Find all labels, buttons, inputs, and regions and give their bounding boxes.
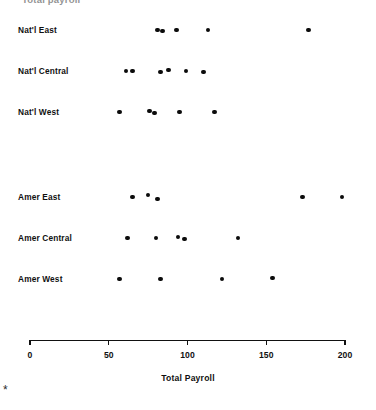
x-axis: 050100150200 — [0, 0, 376, 410]
x-tick-mark — [266, 340, 267, 345]
x-tick-label: 150 — [246, 350, 286, 360]
x-tick-mark — [29, 340, 30, 345]
x-tick-mark — [108, 340, 109, 345]
x-tick-label: 0 — [10, 350, 50, 360]
dot-plot-chart: Total payroll Nat'l EastNat'l CentralNat… — [0, 0, 376, 410]
x-axis-title: Total Payroll — [0, 373, 376, 383]
x-tick-mark — [344, 340, 345, 345]
x-tick-label: 50 — [89, 350, 129, 360]
x-tick-label: 200 — [325, 350, 365, 360]
footnote-asterisk: * — [3, 384, 8, 396]
x-tick-mark — [187, 340, 188, 345]
x-tick-label: 100 — [168, 350, 208, 360]
